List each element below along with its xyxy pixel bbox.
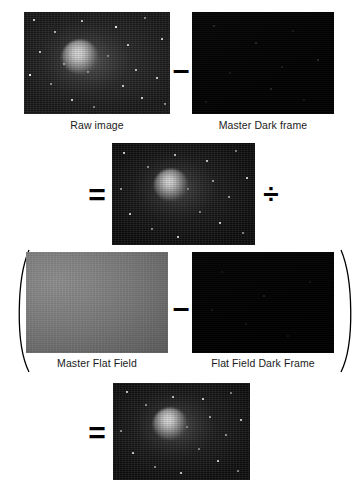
panel-raw-image [24,12,170,114]
panel-final-result [113,383,250,480]
paren-close [338,248,358,374]
caption-master-flat: Master Flat Field [26,357,168,369]
operator-equals-bottom: = [84,418,110,448]
caption-raw-image: Raw image [24,119,170,131]
panel-dark-subtracted [112,143,255,245]
operator-minus-top: – [172,55,190,85]
operator-minus-bottom: – [172,293,190,323]
diagram-canvas: – Raw image Master Dark frame = ÷ – Mast… [0,0,362,494]
panel-master-dark [192,12,334,114]
panel-master-flat [26,252,168,353]
caption-flat-dark: Flat Field Dark Frame [192,357,334,369]
caption-master-dark: Master Dark frame [192,119,334,131]
operator-divide: ÷ [258,180,284,208]
panel-flat-dark [192,252,334,353]
operator-equals-middle: = [84,180,110,210]
